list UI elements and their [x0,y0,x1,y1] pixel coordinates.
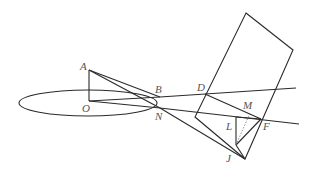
label-M: M [242,99,253,111]
ray-NJ [160,108,245,159]
label-L: L [225,120,232,132]
label-D: D [196,81,205,93]
label-J: J [226,152,232,164]
geometry-diagram: A O B N D M L F J [0,0,314,171]
label-A: A [79,60,87,72]
label-O: O [82,102,90,114]
label-F: F [262,120,270,132]
segment-OB [89,97,160,101]
segment-DF [205,94,261,119]
label-B: B [155,83,162,95]
segment-AB [89,70,160,97]
label-N: N [154,110,163,122]
